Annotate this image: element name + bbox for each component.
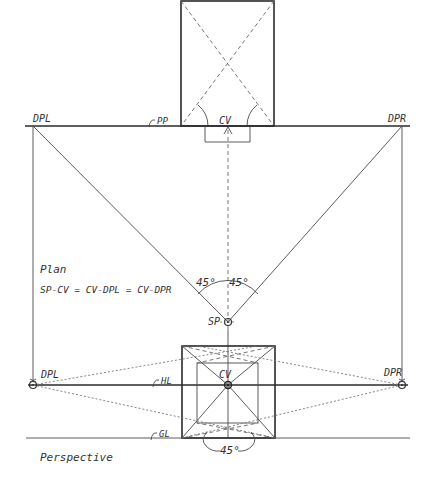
plan-equation: SP-CV = CV-DPL = CV-DPR [40,284,172,295]
plan-view: DPL DPR PP CV SP 45° 45° Plan SP-CV = CV… [25,1,410,382]
label-hl: HL [160,376,172,386]
plan-angle-arc-left [198,105,208,126]
label-pp: PP [157,116,168,126]
cv-marker-dot [227,384,229,386]
label-angle-right: 45° [229,276,249,289]
label-plan-dpl: DPL [32,113,51,124]
perspective-outer-square [182,346,275,438]
label-persp-dpr: DPR [383,367,402,378]
label-plan-cv: CV [219,115,232,126]
gl-leader [151,433,157,440]
top-cross-1 [182,346,258,363]
orthogonal-br [228,385,275,438]
perspective-diagram: DPL DPR PP CV SP 45° 45° Plan SP-CV = CV… [0,0,431,492]
diagonal-to-dpr-bottom [182,385,402,438]
label-plan-dpr: DPR [387,113,406,124]
orthogonal-tr [228,346,275,385]
orthogonal-bl [182,385,228,438]
diagonal-to-dpl-bottom [33,385,275,438]
perspective-caption: Perspective [40,451,113,464]
hl-leader [153,380,159,387]
sight-line-to-dpr [228,126,402,322]
angle-leader-left [203,432,220,451]
plan-angle-arc-right [247,105,257,126]
plan-caption: Plan [40,263,67,276]
label-sp: SP [208,316,220,327]
label-angle-left: 45° [196,276,216,289]
dpl-marker-dot [32,384,34,386]
dpr-marker-dot [401,384,403,386]
perspective-view: 45° DPL DPR HL CV GL Perspective [26,330,410,464]
label-persp-dpl: DPL [40,369,59,380]
label-perspective-angle: 45° [220,444,240,457]
label-gl: GL [159,429,170,439]
label-persp-cv: CV [219,369,232,380]
angle-leader-right [238,432,255,451]
